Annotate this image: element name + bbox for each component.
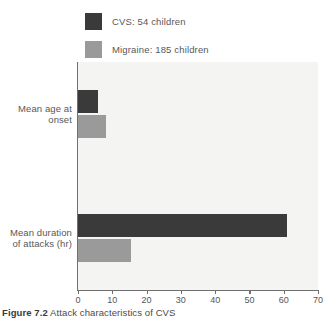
x-axis-tick-label: 40 xyxy=(210,295,220,305)
legend-label-migraine: Migraine: 185 children xyxy=(112,44,209,55)
legend-item-cvs: CVS: 54 children xyxy=(85,10,315,32)
x-axis-tick-label: 50 xyxy=(244,295,254,305)
bars-layer xyxy=(78,62,318,290)
figure-container: CVS: 54 children Migraine: 185 children … xyxy=(0,0,323,320)
y-axis-label-mean-duration-of-attacks: Mean duration of attacks (hr) xyxy=(0,227,72,250)
figure-caption-text: Attack characteristics of CVS xyxy=(50,307,175,318)
legend-item-migraine: Migraine: 185 children xyxy=(85,38,315,60)
y-axis-label-mean-age-at-onset: Mean age at onset xyxy=(0,103,72,126)
x-axis-tick-label: 0 xyxy=(75,295,80,305)
figure-caption: Figure 7.2 Attack characteristics of CVS xyxy=(2,307,175,318)
x-axis-tick-mark xyxy=(147,290,148,294)
figure-caption-number: Figure 7.2 xyxy=(2,307,48,318)
bar-migraine-1 xyxy=(78,239,131,262)
x-axis-tick-label: 20 xyxy=(142,295,152,305)
legend-swatch-cvs xyxy=(85,13,102,30)
x-axis-tick-label: 70 xyxy=(313,295,323,305)
legend-label-cvs: CVS: 54 children xyxy=(112,16,186,27)
x-axis-tick-mark xyxy=(181,290,182,294)
x-axis-tick-label: 30 xyxy=(176,295,186,305)
bar-cvs-0 xyxy=(78,90,98,113)
x-axis-tick-mark xyxy=(249,290,250,294)
x-axis-tick-label: 10 xyxy=(107,295,117,305)
bar-migraine-0 xyxy=(78,115,106,138)
bar-cvs-1 xyxy=(78,214,287,237)
legend-swatch-migraine xyxy=(85,41,102,58)
x-axis-tick-label: 60 xyxy=(279,295,289,305)
chart-legend: CVS: 54 children Migraine: 185 children xyxy=(85,10,315,66)
x-axis-tick-mark xyxy=(318,290,319,294)
plot-area: 010203040506070 xyxy=(78,62,318,290)
x-axis-tick-mark xyxy=(78,290,79,294)
x-axis-tick-mark xyxy=(215,290,216,294)
y-axis-category-labels: Mean age at onset Mean duration of attac… xyxy=(0,62,72,290)
x-axis-tick-mark xyxy=(112,290,113,294)
x-axis-tick-mark xyxy=(284,290,285,294)
